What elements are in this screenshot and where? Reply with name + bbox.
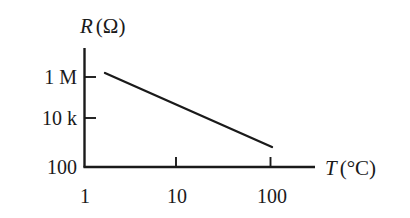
x-axis-unit: (°C) <box>340 156 376 180</box>
y-tick-label-1M: 1 M <box>17 67 77 87</box>
y-axis-unit: (Ω) <box>96 14 126 38</box>
x-tick-label-100: 100 <box>237 186 307 206</box>
x-tick-label-10: 10 <box>142 186 212 206</box>
x-axis-symbol: T <box>325 156 340 180</box>
y-tick-label-100: 100 <box>17 157 77 177</box>
x-tick-label-1: 1 <box>50 186 120 206</box>
y-axis-title: R(Ω) <box>80 16 125 37</box>
y-axis-symbol: R <box>80 14 96 38</box>
x-axis-title: T(°C) <box>325 158 376 179</box>
resistance-curve <box>105 73 272 147</box>
thermistor-log-log-chart: R(Ω) T(°C) 1 M 10 k 100 1 10 100 <box>0 0 410 218</box>
y-tick-label-10k: 10 k <box>17 108 77 128</box>
